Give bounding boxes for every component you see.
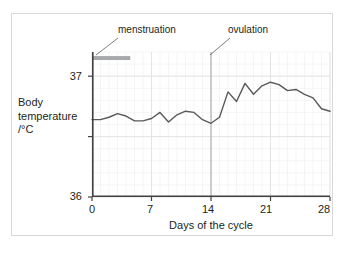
x-tick-label-0: 0 [80, 204, 104, 215]
x-tick-label-21: 21 [254, 204, 278, 215]
plot-svg [92, 52, 330, 197]
y-axis-label-line-3: /°C [18, 123, 88, 137]
annotation-menstruation-label: menstruation [118, 25, 176, 35]
y-axis-label-line-2: temperature [18, 110, 88, 124]
y-tick-label-36: 36 [60, 191, 82, 202]
y-axis-label: Body temperature /°C [18, 96, 88, 137]
figure: 37 36 0 7 14 21 28 Body temperature /°C … [0, 0, 347, 255]
annotation-ovulation-label: ovulation [228, 25, 268, 35]
y-axis-label-line-1: Body [18, 96, 88, 110]
x-tick-label-7: 7 [138, 204, 162, 215]
plot-area [92, 52, 330, 197]
tick-marks [88, 76, 330, 201]
x-tick-label-14: 14 [196, 204, 220, 215]
x-tick-label-28: 28 [312, 204, 336, 215]
annotation-menstruation-bar [92, 56, 130, 60]
x-axis-label: Days of the cycle [92, 220, 330, 231]
y-tick-label-37: 37 [60, 71, 82, 82]
